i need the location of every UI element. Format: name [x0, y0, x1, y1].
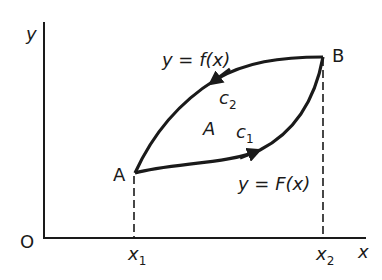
origin-label: O	[20, 231, 34, 252]
point-A-label: A	[113, 164, 126, 185]
region-label: A	[202, 118, 215, 139]
x-axis-label: x	[357, 241, 369, 262]
upper-curve-f	[135, 57, 323, 173]
point-B-label: B	[332, 45, 344, 66]
contour-c2-label: c2	[219, 87, 237, 112]
x2-tick-label: x2	[315, 243, 334, 268]
upper-curve-equation: y = f(x)	[161, 49, 230, 70]
contour-c1-label: c1	[236, 121, 254, 146]
x1-tick-label: x1	[127, 243, 146, 268]
lower-curve-equation: y = F(x)	[237, 173, 310, 194]
area-between-curves-diagram: y x O x1 x2 A B y = f(x) y = F(x) c2 c1 …	[0, 0, 382, 280]
y-axis-label: y	[25, 23, 37, 44]
diagram-svg: y x O x1 x2 A B y = f(x) y = F(x) c2 c1 …	[0, 0, 382, 280]
